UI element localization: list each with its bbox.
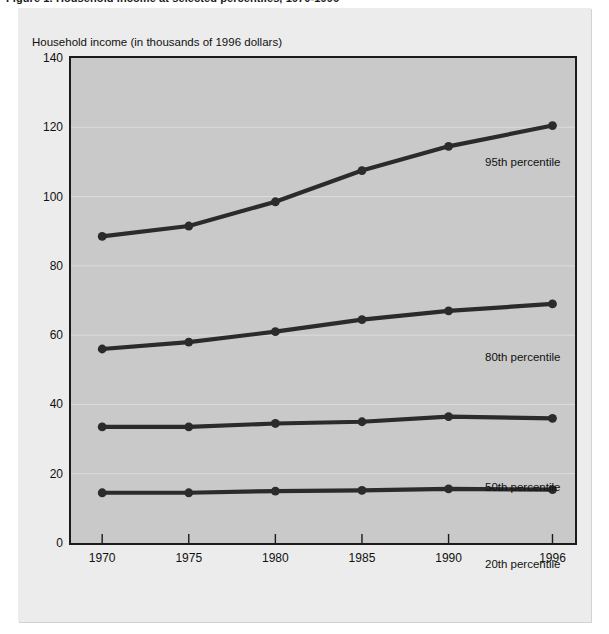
y-tick-label-140: 140: [19, 52, 63, 64]
series-line-2: [102, 417, 552, 427]
series-label-95th: 95th percentile: [485, 156, 560, 168]
x-tick-label-1970: 1970: [72, 552, 132, 564]
data-point: [358, 315, 367, 324]
data-point: [271, 487, 280, 496]
series-line-0: [102, 126, 552, 237]
data-point: [548, 414, 557, 423]
x-tick-label-1990: 1990: [419, 552, 479, 564]
x-tick-label-1980: 1980: [245, 552, 305, 564]
figure-caption-strip: Figure 1. Household income at selected p…: [0, 0, 609, 6]
data-point: [358, 417, 367, 426]
data-point: [444, 306, 453, 315]
y-tick-label-40: 40: [19, 398, 63, 410]
y-tick-label-80: 80: [19, 260, 63, 272]
y-axis-title: Household income (in thousands of 1996 d…: [32, 36, 282, 48]
y-tick-label-100: 100: [19, 191, 63, 203]
data-point: [444, 412, 453, 421]
data-point: [98, 232, 107, 241]
y-tick-label-0: 0: [19, 537, 63, 549]
data-point: [98, 423, 107, 432]
y-tick-label-20: 20: [19, 468, 63, 480]
series-line-1: [102, 304, 552, 349]
data-point: [98, 345, 107, 354]
x-tick-label-1975: 1975: [159, 552, 219, 564]
data-point: [444, 142, 453, 151]
x-tick-label-1985: 1985: [332, 552, 392, 564]
chart-canvas: [71, 58, 575, 543]
plot-area: [69, 56, 577, 545]
data-point: [358, 166, 367, 175]
data-point: [184, 222, 193, 231]
data-point: [184, 338, 193, 347]
data-point: [271, 197, 280, 206]
data-point: [548, 300, 557, 309]
series-label-20th: 20th percentile: [485, 558, 560, 570]
y-tick-label-120: 120: [19, 121, 63, 133]
figure-caption: Figure 1. Household income at selected p…: [6, 0, 339, 4]
series-label-50th: 50th percentile: [485, 481, 560, 493]
data-point: [184, 423, 193, 432]
y-tick-label-60: 60: [19, 329, 63, 341]
data-point: [548, 121, 557, 130]
data-point: [271, 327, 280, 336]
data-point: [184, 488, 193, 497]
data-point: [98, 488, 107, 497]
data-point: [271, 419, 280, 428]
data-point: [444, 485, 453, 494]
data-point: [358, 486, 367, 495]
series-label-80th: 80th percentile: [485, 351, 560, 363]
